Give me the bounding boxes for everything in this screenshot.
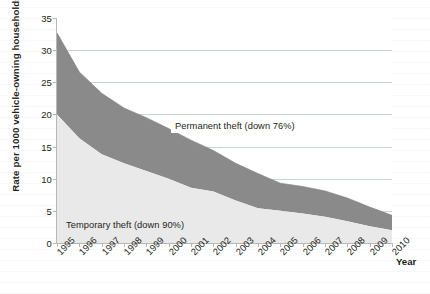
y-axis-ticks: 35 30 25 20 15 10 5 0 <box>0 0 52 294</box>
y-tick-label-15: 15 <box>6 141 52 152</box>
y-tick-label-10: 10 <box>6 173 52 184</box>
chart-figure: Rate per 1000 vehicle-owning households … <box>0 0 430 294</box>
y-tick-label-20: 20 <box>6 109 52 120</box>
y-tick-label-5: 5 <box>6 205 52 216</box>
y-axis-line <box>56 18 57 244</box>
y-tick-label-30: 30 <box>6 45 52 56</box>
y-tick-label-35: 35 <box>6 13 52 24</box>
x-tick-label-2010: 2010 <box>390 235 412 257</box>
annotation-permanent-theft: Permanent theft (down 76%) <box>171 120 299 133</box>
y-tick-label-25: 25 <box>6 77 52 88</box>
annotation-temporary-theft: Temporary theft (down 90%) <box>62 219 188 232</box>
y-tick-label-0: 0 <box>6 238 52 249</box>
x-axis-title: Year <box>396 256 416 267</box>
